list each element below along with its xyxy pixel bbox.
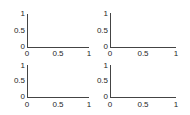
x-axis-line (110, 97, 176, 98)
y-tick-label: 1 (92, 62, 108, 70)
y-axis-line (110, 65, 111, 98)
y-tick-label: 0 (92, 93, 108, 101)
x-tick-label: 0 (102, 101, 118, 109)
x-tick-label: 0.5 (135, 101, 151, 109)
x-tick-label: 1 (168, 101, 184, 109)
subplot-bottom-right: 1 0.5 0 0 0.5 1 (0, 0, 190, 115)
y-tick-label: 0.5 (92, 77, 108, 85)
